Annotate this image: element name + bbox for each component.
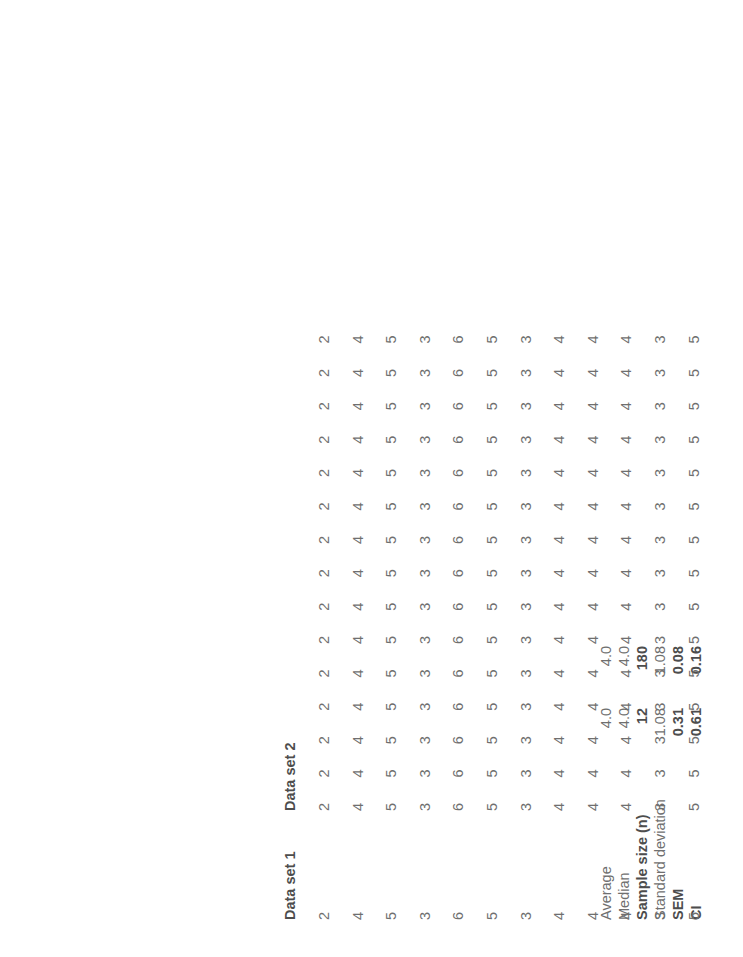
data-cell: 5: [375, 344, 409, 377]
data-cell: 5: [476, 444, 510, 477]
data-cell: 4: [610, 377, 644, 410]
data-cell: 4: [543, 310, 577, 343]
data-cell: 5: [678, 344, 712, 377]
data-column: 245365344435: [308, 410, 711, 443]
data-cell: 5: [375, 377, 409, 410]
data-cell: 5: [678, 711, 712, 744]
data-cell: 5: [375, 410, 409, 443]
data-cell: 3: [510, 577, 544, 610]
data-cell: 3: [409, 778, 443, 811]
data-cell: 3: [409, 410, 443, 443]
data-cell: 3: [510, 510, 544, 543]
data-column: 245365344435: [308, 677, 711, 710]
data-cell: 2: [308, 310, 342, 343]
header-data-set-1: Data set 1: [274, 811, 308, 920]
data-column: 245365344435: [308, 744, 711, 777]
data-cell: 4: [610, 778, 644, 811]
data-cell: 3: [644, 444, 678, 477]
data-column: 245365344435: [308, 778, 711, 811]
data-cell: 4: [577, 410, 611, 443]
data-cell: 5: [476, 377, 510, 410]
data-cell: 5: [375, 644, 409, 677]
data-cell: 4: [543, 677, 577, 710]
data-cell: 3: [644, 410, 678, 443]
data-cell: 4: [577, 611, 611, 644]
data-column: 245365344435: [308, 310, 711, 343]
data-cell: 3: [510, 778, 544, 811]
data-cell: 4: [342, 510, 376, 543]
data-cell: 5: [678, 444, 712, 477]
data-cell: 4: [342, 677, 376, 710]
rotated-page-stage: Average4.04.0Median4.04.0Sample size (n)…: [0, 0, 743, 957]
data-cell: 5: [476, 677, 510, 710]
data-cell: 5: [476, 477, 510, 510]
data-cell: 4: [577, 377, 611, 410]
data-cell: 4: [543, 611, 577, 644]
data-cell: 6: [442, 510, 476, 543]
data-cell: 4: [543, 477, 577, 510]
data-cell: 2: [308, 477, 342, 510]
data-cell: 4: [342, 711, 376, 744]
data-cell: 5: [476, 410, 510, 443]
data-cell: 4: [610, 611, 644, 644]
data-column: 245365344435: [308, 577, 711, 610]
data-cell: 3: [644, 611, 678, 644]
data-cell: 4: [610, 711, 644, 744]
data-cell: 4: [543, 444, 577, 477]
document-sheet: Average4.04.0Median4.04.0Sample size (n)…: [0, 0, 743, 957]
data-cell: 5: [375, 711, 409, 744]
data-cell: 5: [375, 611, 409, 644]
data-cell: 3: [409, 377, 443, 410]
data-cell: 4: [577, 310, 611, 343]
data-cell: 3: [409, 744, 443, 777]
data-cell: 3: [510, 344, 544, 377]
data-cell: 2: [308, 344, 342, 377]
data-values-grid: 245365344435 245365344435245365344435245…: [308, 310, 711, 920]
data-cell: 5: [375, 477, 409, 510]
data-cell: 3: [644, 811, 678, 920]
data-cell: 5: [375, 677, 409, 710]
data-cell: 6: [442, 577, 476, 610]
data-cell: 4: [577, 344, 611, 377]
data-cell: 4: [543, 544, 577, 577]
data-cell: 3: [644, 677, 678, 710]
data-cell: 6: [442, 778, 476, 811]
data-cell: 5: [476, 811, 510, 920]
data-cell: 3: [409, 711, 443, 744]
data-cell: 4: [342, 577, 376, 610]
data-cell: 4: [342, 811, 376, 920]
data-cell: 2: [308, 611, 342, 644]
data-cell: 4: [543, 510, 577, 543]
data-cell: 4: [577, 677, 611, 710]
data-cell: 2: [308, 577, 342, 610]
data-cell: 5: [375, 577, 409, 610]
data-cell: 4: [577, 444, 611, 477]
data-cell: 3: [644, 711, 678, 744]
data-cell: 6: [442, 677, 476, 710]
data-cell: 4: [610, 344, 644, 377]
data-column: 245365344435: [308, 477, 711, 510]
data-cell: 4: [577, 477, 611, 510]
data-cell: 3: [409, 544, 443, 577]
data-cell: 5: [678, 410, 712, 443]
data-cell: 4: [577, 744, 611, 777]
data-cell: 5: [375, 510, 409, 543]
data-cell: 3: [510, 544, 544, 577]
data-cell: 6: [442, 644, 476, 677]
data-cell: 6: [442, 310, 476, 343]
data-cell: 3: [510, 611, 544, 644]
data-cell: 4: [342, 744, 376, 777]
data-cell: 6: [442, 477, 476, 510]
data-cell: 3: [644, 377, 678, 410]
data-cell: 4: [543, 377, 577, 410]
data-cell: 5: [476, 711, 510, 744]
data-cell: 4: [342, 410, 376, 443]
data-cell: 6: [442, 744, 476, 777]
data-cell: 4: [610, 677, 644, 710]
data-cell: 5: [375, 778, 409, 811]
data-cell: 4: [342, 544, 376, 577]
data-cell: 4: [577, 510, 611, 543]
data-cell: 3: [510, 711, 544, 744]
data-cell: 5: [678, 811, 712, 920]
data-cell: 3: [644, 344, 678, 377]
